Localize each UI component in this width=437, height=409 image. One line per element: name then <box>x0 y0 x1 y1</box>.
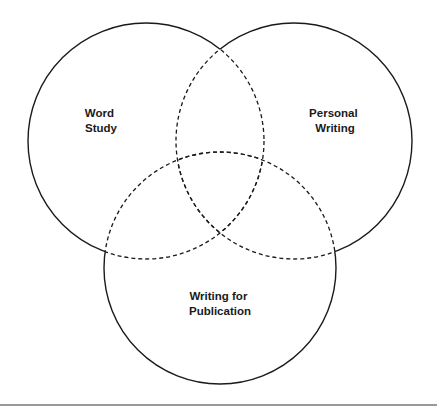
circle-writing-for-publication <box>104 152 336 384</box>
label-personal-writing: Personal Writing <box>309 107 361 134</box>
circle-personal-writing <box>176 23 412 259</box>
label-word-study: Word Study <box>85 107 118 134</box>
circle-word-study <box>28 23 264 259</box>
label-writing-for-publication: Writing for Publication <box>189 290 251 317</box>
venn-diagram: Word Study Personal Writing Writing for … <box>0 0 437 409</box>
